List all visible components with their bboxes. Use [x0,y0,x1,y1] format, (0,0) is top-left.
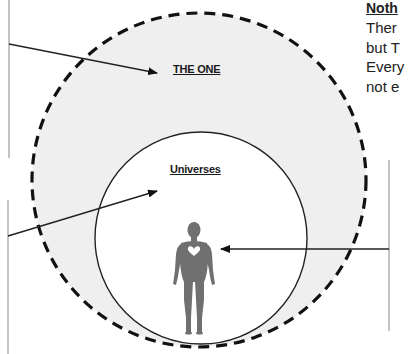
side-text-line: not e [366,77,409,97]
side-text-block: Noth Ther but T Every not e [366,0,409,96]
label-universes: Universes [170,163,221,175]
side-text-line: Every [366,57,409,77]
side-text-line: Ther [366,18,409,38]
side-text-line: but T [366,38,409,58]
side-text-heading: Noth [366,0,409,16]
label-the-one: THE ONE [173,63,221,75]
